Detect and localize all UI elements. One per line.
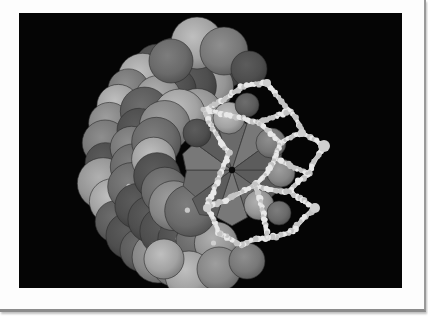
- inner-subunit: [235, 93, 259, 117]
- cage-bead: [278, 158, 284, 164]
- capsid-sphere: [149, 39, 193, 83]
- cage-bead: [265, 231, 270, 236]
- inner-subunit: [267, 201, 291, 225]
- cage-bead: [295, 169, 298, 172]
- cage-node: [298, 129, 306, 137]
- cage-bead: [308, 212, 312, 216]
- capsid-sphere: [144, 239, 184, 279]
- cage-node: [263, 79, 271, 87]
- cage-node: [203, 204, 211, 212]
- cage-bead: [288, 108, 292, 112]
- sphere-highlight: [185, 208, 190, 213]
- cage-bead: [272, 133, 275, 136]
- figure-card: [0, 0, 426, 312]
- cage-node: [318, 140, 330, 152]
- capsid-sphere: [229, 243, 265, 279]
- cage-bead: [265, 236, 268, 239]
- cage-bead: [268, 131, 274, 137]
- molecular-image-panel: [19, 13, 402, 288]
- cage-bead: [273, 93, 277, 97]
- cage-bead: [308, 171, 312, 175]
- sphere-highlight: [211, 240, 216, 245]
- capsid-center-dot: [229, 167, 235, 173]
- cage-bead: [274, 137, 278, 141]
- cage-bead: [272, 116, 275, 119]
- cage-bead: [273, 155, 276, 158]
- cage-bead: [264, 173, 267, 176]
- cage-bead: [288, 190, 292, 194]
- cage-bead: [201, 107, 206, 112]
- cage-bead: [215, 225, 219, 229]
- capsid-rendering: [19, 13, 402, 288]
- cage-bead: [269, 187, 274, 192]
- cage-bead: [249, 238, 253, 242]
- cage-node: [310, 203, 320, 213]
